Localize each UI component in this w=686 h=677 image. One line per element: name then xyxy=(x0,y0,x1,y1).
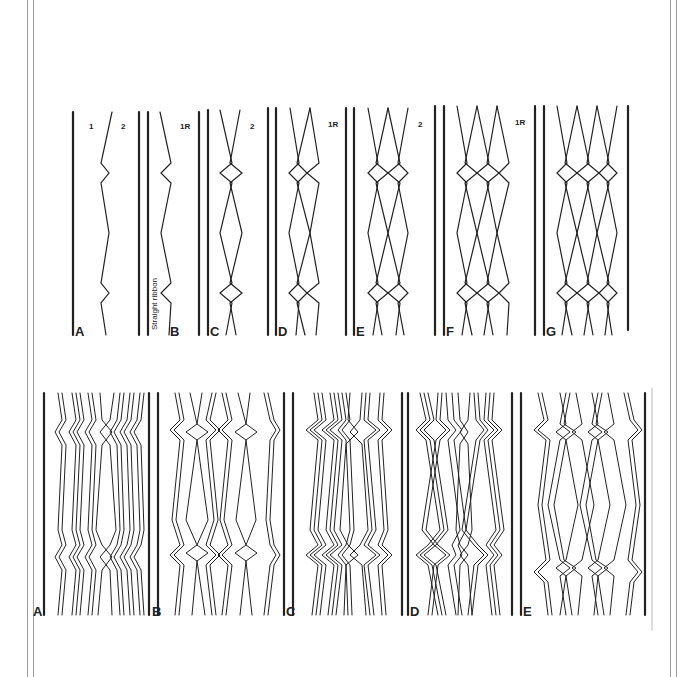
annotation-a-2: 2 xyxy=(121,122,126,131)
top-row: 1 2 1R 2 1R 2 1R Straight ribbon A B C D… xyxy=(73,106,628,339)
top-panel-label-d: D xyxy=(278,324,287,339)
top-panel-label-b: B xyxy=(170,324,179,339)
bottom-panel-d-strands xyxy=(416,393,504,615)
annotation-f-1r: 1R xyxy=(515,118,525,127)
top-panel-d-strands xyxy=(289,108,319,335)
top-panel-f-strands xyxy=(457,106,509,335)
top-panel-label-c: C xyxy=(210,324,220,339)
top-panel-e-strands xyxy=(368,108,408,335)
top-panel-a-strand xyxy=(101,112,112,335)
top-panel-label-a: A xyxy=(75,324,85,339)
annotation-c-2: 2 xyxy=(250,122,255,131)
top-panel-label-g: G xyxy=(546,324,556,339)
annotation-d-1r: 1R xyxy=(328,120,338,129)
bottom-row: A B C D E xyxy=(33,393,645,619)
top-panel-label-f: F xyxy=(446,324,454,339)
bottom-panel-label-e: E xyxy=(523,604,532,619)
bottom-panel-e-strands xyxy=(534,393,642,615)
top-panel-label-e: E xyxy=(356,324,365,339)
bottom-panel-label-a: A xyxy=(33,604,43,619)
top-panel-g-strands xyxy=(557,106,617,335)
straight-ribbon-label: Straight ribbon xyxy=(150,278,159,330)
ribbon-pattern-diagram: 1 2 1R 2 1R 2 1R Straight ribbon A B C D… xyxy=(0,0,686,677)
annotation-a-1: 1 xyxy=(89,122,94,131)
bottom-panel-label-c: C xyxy=(286,604,296,619)
annotation-e-2: 2 xyxy=(418,120,423,129)
bottom-panel-c-strands xyxy=(306,393,392,615)
top-panel-b-strand xyxy=(160,112,171,335)
annotation-b-1r: 1R xyxy=(180,122,190,131)
bottom-panel-a-strands xyxy=(55,393,144,615)
bottom-panel-label-d: D xyxy=(410,604,419,619)
bottom-panel-b-strands xyxy=(170,393,280,615)
top-panel-c-strands xyxy=(220,110,242,335)
bottom-row-letters: A B C D E xyxy=(33,604,532,619)
bottom-panel-label-b: B xyxy=(152,604,161,619)
